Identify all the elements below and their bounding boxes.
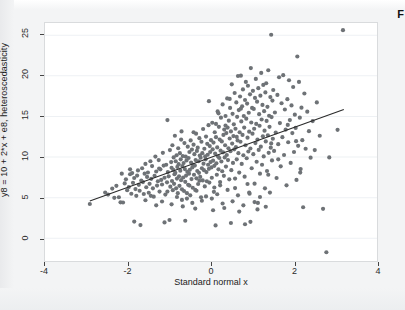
fit-line	[45, 23, 377, 261]
y-tick-label: 20	[12, 69, 38, 79]
scan-edge-bottom	[0, 288, 405, 310]
y-axis-title-label: y8 = 10 + 2*x + e8, heteroscedasticity	[0, 43, 9, 197]
x-tick-label: 2	[280, 266, 310, 276]
x-tick-mark	[295, 262, 296, 266]
x-tick-mark	[378, 262, 379, 266]
x-tick-mark	[44, 262, 45, 266]
x-tick-label: 4	[363, 266, 393, 276]
x-tick-mark	[128, 262, 129, 266]
caption-fragment-text: F	[397, 8, 404, 20]
plot-inner	[45, 23, 377, 261]
y-tick-label: 15	[12, 110, 38, 120]
y-tick-label: 0	[12, 233, 38, 243]
scan-edge-top	[0, 0, 405, 10]
y-tick-label: 5	[12, 192, 38, 202]
y-axis-title: y8 = 10 + 2*x + e8, heteroscedasticity	[0, 0, 12, 240]
y-tick-label: 25	[12, 28, 38, 38]
plot-panel	[44, 22, 378, 262]
x-tick-label: -4	[29, 266, 59, 276]
x-tick-label: -2	[113, 266, 143, 276]
y-tick-label: 10	[12, 151, 38, 161]
x-axis-title: Standard normal x	[44, 277, 378, 287]
x-axis-title-label: Standard normal x	[174, 277, 248, 287]
x-tick-label: 0	[196, 266, 226, 276]
figure-root: F y8 = 10 + 2*x + e8, heteroscedasticity…	[0, 0, 405, 310]
x-tick-mark	[211, 262, 212, 266]
